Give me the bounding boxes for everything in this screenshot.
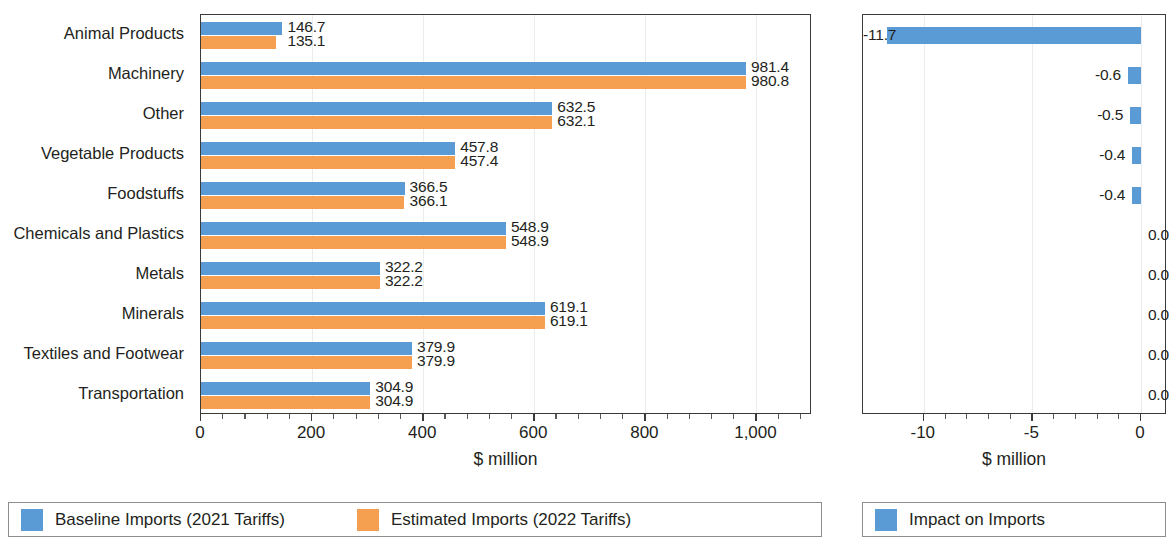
bar-value-label: 0.0 [1148,388,1169,402]
bar-estimated [201,316,545,329]
category-label: Transportation [78,384,184,402]
x-axis-minor-tick [988,414,989,419]
x-axis-minor-tick [800,414,801,419]
left-chart-category-axis: Animal ProductsMachineryOtherVegetable P… [0,14,192,414]
x-axis-minor-tick [400,414,401,419]
bar-baseline [201,142,455,155]
bar-value-label: 548.9 [511,234,549,248]
x-axis-minor-tick [622,414,623,419]
x-axis-tick-label: 0 [1135,423,1144,443]
x-axis-minor-tick [1075,414,1076,419]
bar-value-label: 366.1 [410,194,448,208]
bar-baseline [201,22,282,35]
category-label: Animal Products [64,24,184,42]
x-axis-minor-tick [489,414,490,419]
bar-value-label: 322.2 [385,274,423,288]
x-axis-minor-tick [444,414,445,419]
x-axis-tick [1031,414,1032,421]
x-axis-tick-label: 800 [630,423,658,443]
bar-value-label: 457.4 [460,154,498,168]
legend-item[interactable]: Estimated Imports (2022 Tariffs) [357,509,631,531]
legend-swatch-icon [357,509,379,531]
bar-value-label: 0.0 [1148,308,1169,322]
legend-swatch-icon [875,509,897,531]
left-chart-plot-area [200,14,811,414]
legend-item[interactable]: Impact on Imports [875,509,1045,531]
bar-value-label: -0.4 [863,188,1125,202]
x-axis-minor-tick [1053,414,1054,419]
x-axis-tick [533,414,534,421]
right-chart-plot-area: -11.7-0.6-0.5-0.4-0.40.00.00.00.00.0 [862,14,1166,414]
x-axis-minor-tick [511,414,512,419]
x-axis-minor-tick [356,414,357,419]
x-axis-minor-tick [778,414,779,419]
x-axis-minor-tick [600,414,601,419]
bar-impact [1130,107,1141,124]
right-chart-panel: -11.7-0.6-0.5-0.4-0.40.00.00.00.00.0 -10… [855,0,1166,537]
x-axis-tick-label: 1,000 [734,423,777,443]
bar-value-label: 619.1 [550,314,588,328]
bar-estimated [201,76,746,89]
left-chart-x-axis-title: $ million [200,449,811,470]
x-axis-minor-tick [578,414,579,419]
x-axis-tick [311,414,312,421]
left-chart-x-axis: 02004006008001,000 [200,414,811,444]
bar-estimated [201,116,552,129]
bar-value-label: 379.9 [417,354,455,368]
x-axis-tick [422,414,423,421]
x-axis-minor-tick [966,414,967,419]
x-axis-minor-tick [244,414,245,419]
bar-value-label: 304.9 [375,394,413,408]
category-label: Minerals [122,304,184,322]
x-axis-minor-tick [555,414,556,419]
x-axis-minor-tick [267,414,268,419]
x-axis-tick-label: 0 [195,423,204,443]
bar-baseline [201,102,552,115]
x-axis-minor-tick [378,414,379,419]
x-axis-tick [755,414,756,421]
bar-estimated [201,276,380,289]
bar-value-label: -0.5 [863,108,1123,122]
category-label: Metals [135,264,184,282]
x-axis-minor-tick [733,414,734,419]
bar-estimated [201,156,455,169]
bar-estimated [201,396,370,409]
legend-item[interactable]: Baseline Imports (2021 Tariffs) [21,509,285,531]
category-label: Chemicals and Plastics [13,224,184,242]
bar-impact [1128,67,1141,84]
x-axis-tick [923,414,924,421]
bar-estimated [201,236,506,249]
category-label: Vegetable Products [41,144,184,162]
x-axis-tick [644,414,645,421]
bar-baseline [201,262,380,275]
x-axis-minor-tick [945,414,946,419]
x-axis-minor-tick [1097,414,1098,419]
bar-value-label: 632.1 [557,114,595,128]
bar-baseline [201,62,746,75]
bar-value-label: 0.0 [1148,268,1169,282]
legend-swatch-icon [21,509,43,531]
legend-label: Impact on Imports [909,510,1045,530]
right-chart-x-axis: -10-50 [862,414,1166,444]
legend-label: Baseline Imports (2021 Tariffs) [55,510,285,530]
category-label: Textiles and Footwear [24,344,185,362]
bar-value-label: -11.7 [863,28,880,42]
x-axis-tick-label: -10 [911,423,936,443]
bar-value-label: -0.6 [863,68,1121,82]
bar-baseline [201,222,506,235]
x-axis-tick-label: -5 [1024,423,1039,443]
bar-value-label: 0.0 [1148,228,1169,242]
x-axis-minor-tick [711,414,712,419]
bar-baseline [201,182,405,195]
bar-estimated [201,196,404,209]
bar-impact [1132,147,1141,164]
x-axis-tick-label: 200 [297,423,325,443]
x-axis-minor-tick [289,414,290,419]
x-axis-tick-label: 400 [408,423,436,443]
bar-impact [1132,187,1141,204]
right-chart-x-axis-title: $ million [862,449,1166,470]
left-chart-bar-rows [201,15,810,413]
bar-estimated [201,36,276,49]
bar-estimated [201,356,412,369]
x-axis-minor-tick [1010,414,1011,419]
